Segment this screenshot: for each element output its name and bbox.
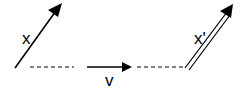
vector-v-arrowhead-icon: [122, 62, 132, 72]
vector-v-label: v: [105, 71, 114, 90]
vector-x-label: x: [22, 29, 31, 48]
vector-x-prime-label: x': [194, 29, 206, 48]
vector-x-prime: x': [185, 4, 233, 70]
vector-x-prime-shaft-1: [185, 12, 227, 68]
vector-x: x: [15, 3, 62, 68]
velocity-transform-diagram: x v x': [0, 0, 248, 90]
vector-v: v: [87, 62, 132, 90]
vector-x-prime-arrowhead-icon: [220, 4, 233, 18]
vector-x-arrowhead-icon: [48, 3, 62, 17]
